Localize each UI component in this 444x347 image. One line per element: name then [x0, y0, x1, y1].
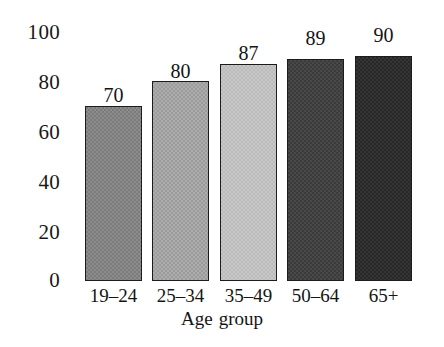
x-tick-label-50-64: 50–64: [282, 286, 349, 306]
x-axis-title: Agegroup: [0, 308, 444, 330]
bar-65-plus[interactable]: [355, 56, 412, 281]
bar-value-label-50-64: 89: [287, 28, 344, 48]
bar-25-34[interactable]: [152, 81, 209, 281]
x-tick-label-65-plus: 65+: [350, 286, 417, 306]
bar-value-label-19-24: 70: [85, 85, 142, 105]
bar-value-label-35-49: 87: [220, 43, 277, 63]
x-axis-title-word-2: group: [219, 308, 263, 329]
x-tick-label-25-34: 25–34: [147, 286, 214, 306]
x-tick-label-19-24: 19–24: [80, 286, 147, 306]
x-axis-title-word-1: Age: [181, 308, 213, 329]
bar-35-49[interactable]: [220, 64, 277, 281]
bar-chart: 100 80 60 40 20 0 70 19–24 80 25–34 87 3…: [0, 0, 444, 347]
bar-19-24[interactable]: [85, 106, 142, 281]
plot-area: 70 19–24 80 25–34 87 35–49 89 50–64 90 6…: [0, 0, 444, 347]
bar-value-label-25-34: 80: [152, 61, 209, 81]
x-tick-label-35-49: 35–49: [215, 286, 282, 306]
bar-value-label-65-plus: 90: [355, 25, 412, 45]
bar-50-64[interactable]: [287, 59, 344, 281]
